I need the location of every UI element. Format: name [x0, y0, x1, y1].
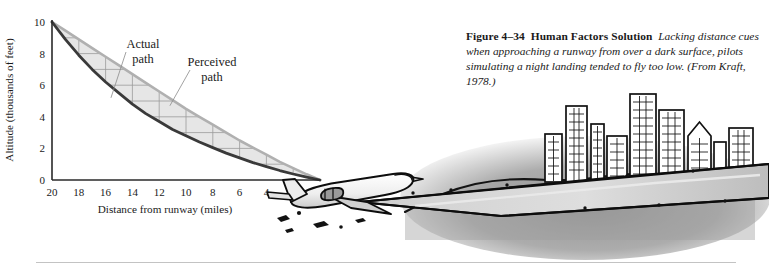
- illustration-svg: [255, 80, 769, 260]
- night-landing-illustration: [255, 80, 769, 260]
- annotation-labels: Actual path Perceived path: [126, 37, 237, 84]
- x-tick-label: 12: [154, 186, 165, 198]
- perceived-path-leader-line: [170, 70, 190, 106]
- y-tick-label: 6: [40, 79, 46, 91]
- figure-number: Figure 4–34: [466, 30, 525, 42]
- y-tick-label: 8: [40, 48, 46, 60]
- y-axis-tick-labels: 0246810: [34, 16, 46, 186]
- ground-debris: [277, 211, 366, 233]
- y-tick-label: 4: [40, 111, 46, 123]
- x-tick-label: 16: [100, 186, 112, 198]
- y-tick-label: 10: [34, 16, 46, 28]
- x-tick-label: 18: [73, 186, 85, 198]
- figure-title: Human Factors Solution: [531, 30, 653, 42]
- y-tick-label: 0: [40, 174, 46, 186]
- perceived-path-label-line2: path: [201, 70, 223, 84]
- x-tick-label: 20: [47, 186, 59, 198]
- x-tick-label: 6: [237, 186, 243, 198]
- figure-4-34: 0246810 20181614121086420 Altitude (thou…: [0, 0, 769, 271]
- x-axis-title: Distance from runway (miles): [98, 203, 233, 216]
- x-tick-label: 14: [127, 186, 139, 198]
- x-tick-label: 10: [181, 186, 193, 198]
- y-axis-title: Altitude (thousands of feet): [3, 38, 16, 162]
- x-tick-label: 8: [210, 186, 216, 198]
- y-tick-label: 2: [40, 142, 46, 154]
- perceived-path-label-line1: Perceived: [188, 55, 238, 69]
- actual-path-label-line1: Actual: [126, 37, 160, 51]
- figure-bottom-rule: [36, 262, 736, 263]
- actual-path-label-line2: path: [132, 52, 154, 66]
